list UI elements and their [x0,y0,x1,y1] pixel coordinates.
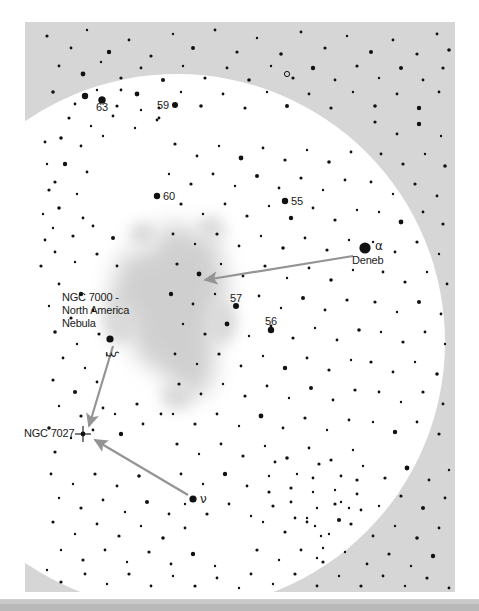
star-55 [282,198,288,204]
label-ngc7027: NGC 7027 [24,427,74,439]
star-60 [154,193,160,199]
star-deneb [359,242,370,253]
star-xi [106,335,113,342]
bottom-bar [0,599,479,611]
label-star-59: 59 [157,99,169,111]
label-deneb-name: Deneb [352,254,383,266]
star-56 [268,327,274,333]
label-star-60: 60 [163,190,175,202]
label-star-56: 56 [265,315,277,327]
star-chart-page: 63 59 60 55 57 56 α Deneb ξ ν NGC 7000 -… [0,0,479,611]
star-nu [189,495,196,502]
label-nu-greek: ν [200,493,207,506]
label-star-55: 55 [291,195,303,207]
label-star-57: 57 [230,292,242,304]
label-deneb-greek: α [375,240,383,253]
star-59 [172,102,178,108]
label-ngc7000: NGC 7000 - North America Nebula [62,291,129,329]
label-xi-greek: ξ [106,351,119,358]
bottom-bar-highlight [0,600,479,604]
label-star-63: 63 [96,101,108,113]
